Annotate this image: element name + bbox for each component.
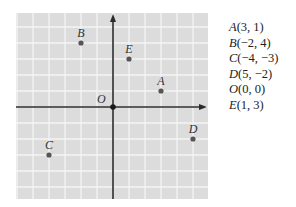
legend-item-c: C(−4, −3)	[229, 51, 279, 67]
legend-item-b: B(−2, 4)	[229, 36, 279, 52]
legend-coords: (5, −2)	[238, 67, 272, 81]
coordinate-plane: O ABCDE	[0, 0, 222, 207]
legend-letter: A	[229, 20, 237, 34]
point-label: E	[124, 42, 133, 56]
legend-coords: (−4, −3)	[237, 51, 278, 65]
legend-coords: (1, 3)	[237, 98, 264, 112]
point-marker	[46, 152, 51, 157]
point-label: D	[188, 122, 198, 136]
point-marker	[78, 40, 83, 45]
legend-coords: (3, 1)	[237, 20, 264, 34]
legend-letter: O	[229, 82, 238, 96]
point-marker	[126, 56, 131, 61]
origin-point	[110, 104, 116, 110]
legend-letter: E	[229, 98, 237, 112]
legend-item-d: D(5, −2)	[229, 67, 279, 83]
point-marker	[190, 136, 195, 141]
point-label: C	[45, 138, 54, 152]
legend-letter: B	[229, 36, 237, 50]
legend-coords: (−2, 4)	[237, 36, 271, 50]
point-coordinates-legend: A(3, 1) B(−2, 4) C(−4, −3) D(5, −2) O(0,…	[229, 20, 279, 114]
point-marker	[158, 88, 163, 93]
legend-coords: (0, 0)	[238, 82, 265, 96]
legend-item-e: E(1, 3)	[229, 98, 279, 114]
legend-letter: D	[229, 67, 238, 81]
legend-item-a: A(3, 1)	[229, 20, 279, 36]
legend-item-o: O(0, 0)	[229, 82, 279, 98]
point-label: A	[156, 74, 165, 88]
point-label: B	[77, 26, 85, 40]
origin-label: O	[97, 92, 106, 106]
